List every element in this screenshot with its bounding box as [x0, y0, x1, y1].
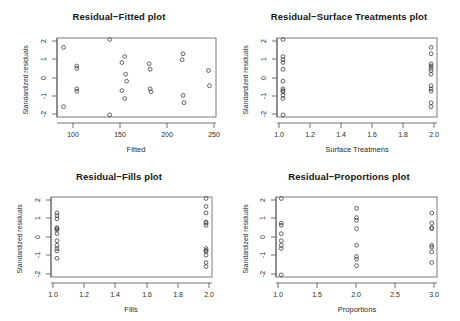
- x-tick-label: 2.0: [204, 291, 214, 298]
- y-axis-label: Standardized residuals: [16, 204, 23, 274]
- data-point: [75, 89, 79, 93]
- x-axis: 100 150 200 250: [57, 123, 220, 138]
- data-point: [124, 72, 128, 76]
- data-point: [55, 232, 59, 236]
- y-tick-label: 0: [40, 76, 47, 80]
- data-point: [62, 105, 66, 109]
- data-point: [204, 253, 208, 257]
- x-tick-label: 1.4: [336, 131, 346, 138]
- data-point: [123, 55, 127, 59]
- x-tick-label: 1.6: [142, 291, 152, 298]
- data-point: [123, 97, 127, 101]
- data-point: [355, 243, 359, 247]
- y-axis-label: Standardized residuals: [22, 45, 29, 115]
- x-axis-label: Proportions: [338, 305, 377, 314]
- data-point: [147, 62, 151, 66]
- plot-frame: [277, 38, 437, 117]
- data-point: [62, 45, 66, 49]
- data-point: [204, 261, 208, 265]
- x-tick-label: 1.0: [273, 291, 283, 298]
- y-axis-label: Standardized residuals: [242, 45, 249, 115]
- y-tick-label: -2: [260, 111, 267, 117]
- residual-proportions-plot: Residual−Proportions plot Standardized r…: [230, 161, 460, 321]
- data-point: [281, 67, 285, 71]
- data-point: [55, 256, 59, 260]
- x-axis-label: Fills: [124, 305, 138, 314]
- data-point: [429, 89, 433, 93]
- y-tick-label: 1: [260, 57, 267, 61]
- figure-panel-grid: Residual−Fitted plot Standardized residu…: [0, 0, 460, 321]
- plot-frame: [51, 197, 212, 277]
- y-tick-label: -1: [40, 93, 47, 99]
- y-tick-label: 2: [260, 39, 267, 43]
- x-tick-label: 250: [208, 131, 220, 138]
- data-point: [429, 105, 433, 109]
- data-point: [75, 66, 79, 70]
- plot-frame: [57, 38, 216, 117]
- data-point: [55, 249, 59, 253]
- x-axis-label: Fitted: [127, 145, 146, 154]
- y-axis-label: Standardized residuals: [242, 204, 249, 274]
- data-point: [204, 265, 208, 269]
- plot-title: Residual−Fills plot: [76, 171, 163, 182]
- residual-surface-treatments-plot: Residual−Surface Treatments plot Standar…: [230, 0, 460, 160]
- y-tick-label: -2: [259, 271, 266, 277]
- y-tick-label: -2: [34, 271, 41, 277]
- data-point: [279, 239, 283, 243]
- data-point: [355, 264, 359, 268]
- x-tick-label: 1.4: [110, 291, 120, 298]
- y-tick-label: -1: [259, 252, 266, 258]
- data-point: [429, 72, 433, 76]
- plot-title: Residual−Surface Treatments plot: [271, 11, 428, 22]
- data-point: [204, 205, 208, 209]
- plot-frame: [276, 197, 437, 277]
- x-tick-label: 100: [67, 131, 79, 138]
- data-point: [181, 93, 185, 97]
- panel-residual-fitted: Residual−Fitted plot Standardized residu…: [0, 0, 230, 160]
- y-tick-label: 0: [259, 235, 266, 239]
- x-tick-label: 3.0: [429, 291, 439, 298]
- x-axis: 1.0 1.2 1.4 1.6 1.8 2.0: [274, 123, 439, 138]
- data-points: [55, 197, 208, 269]
- y-tick-label: 0: [260, 76, 267, 80]
- data-point: [430, 221, 434, 225]
- y-axis: 2 1 0 -1 -2: [260, 38, 277, 117]
- data-point: [429, 52, 433, 56]
- data-point: [125, 79, 129, 83]
- data-point: [429, 101, 433, 105]
- x-tick-label: 1.0: [274, 131, 284, 138]
- data-point: [355, 227, 359, 231]
- data-point: [182, 101, 186, 105]
- panel-residual-surface-treatments: Residual−Surface Treatments plot Standar…: [230, 0, 460, 160]
- y-tick-label: 1: [34, 216, 41, 220]
- y-tick-label: -1: [260, 93, 267, 99]
- x-tick-label: 1.8: [173, 291, 183, 298]
- x-tick-label: 1.2: [305, 131, 315, 138]
- data-point: [120, 89, 124, 93]
- x-axis: 1.0 1.5 2.0 2.5 3.0: [273, 283, 439, 298]
- data-point: [204, 211, 208, 215]
- residual-fills-plot: Residual−Fills plot Standardized residua…: [0, 161, 230, 321]
- x-axis: 1.0 1.2 1.4 1.6 1.8 2.0: [48, 283, 214, 298]
- data-point: [180, 58, 184, 62]
- x-tick-label: 1.6: [367, 131, 377, 138]
- y-tick-label: 2: [34, 198, 41, 202]
- data-point: [279, 232, 283, 236]
- data-point: [208, 84, 212, 88]
- plot-title: Residual−Fitted plot: [72, 11, 166, 22]
- y-axis: 2 1 0 -1 -2: [40, 38, 57, 117]
- y-tick-label: 0: [34, 235, 41, 239]
- x-tick-label: 2.0: [351, 291, 361, 298]
- data-point: [429, 45, 433, 49]
- y-tick-label: -1: [34, 252, 41, 258]
- y-tick-label: -2: [40, 111, 47, 117]
- x-tick-label: 2.5: [390, 291, 400, 298]
- x-tick-label: 1.8: [398, 131, 408, 138]
- data-point: [430, 250, 434, 254]
- data-point: [108, 113, 112, 117]
- data-point: [281, 113, 285, 117]
- x-tick-label: 200: [161, 131, 173, 138]
- data-point: [120, 61, 124, 65]
- data-point: [355, 257, 359, 261]
- y-axis: 2 1 0 -1 -2: [34, 197, 51, 277]
